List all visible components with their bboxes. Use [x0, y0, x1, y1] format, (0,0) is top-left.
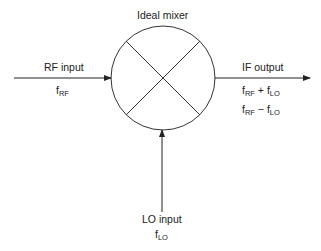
if-output-label: IF output	[242, 62, 283, 73]
lo-freq-sub: LO	[158, 233, 168, 242]
lo-input-label: LO input	[142, 214, 182, 225]
rf-freq-sub: RF	[59, 89, 69, 98]
mixer-title: Ideal mixer	[137, 10, 188, 21]
lo-frequency: fLO	[155, 229, 168, 242]
if-diff-b-sub: LO	[270, 108, 280, 117]
rf-frequency: fRF	[56, 85, 69, 98]
if-sum-op: +	[255, 84, 267, 96]
if-frequency-diff: fRF − fLO	[242, 104, 280, 117]
if-diff-op: −	[255, 103, 267, 115]
if-frequency-sum: fRF + fLO	[242, 85, 280, 98]
rf-input-label: RF input	[44, 62, 84, 73]
if-sum-b-sub: LO	[270, 89, 280, 98]
if-sum-a-sub: RF	[245, 89, 255, 98]
if-diff-a-sub: RF	[245, 108, 255, 117]
